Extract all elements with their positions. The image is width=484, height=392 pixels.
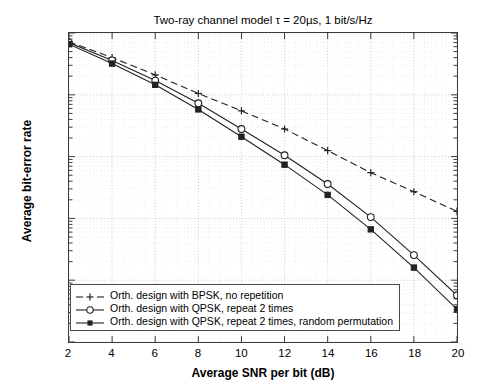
x-tick-label: 12 — [278, 347, 291, 359]
x-tick-label: 14 — [322, 347, 335, 359]
chart-figure: Two-ray channel model τ = 20µs, 1 bit/s/… — [0, 0, 484, 392]
legend-label: Orth. design with QPSK, repeat 2 times, … — [110, 315, 393, 327]
legend-item: Orth. design with QPSK, repeat 2 times — [75, 301, 393, 314]
legend-label: Orth. design with BPSK, no repetition — [110, 289, 283, 301]
legend-item: Orth. design with BPSK, no repetition — [75, 288, 393, 301]
x-tick-label: 20 — [452, 347, 465, 359]
x-tick-label: 2 — [65, 347, 71, 359]
chart-legend: Orth. design with BPSK, no repetitionOrt… — [70, 284, 400, 331]
legend-marker-square-filled-icon — [75, 315, 105, 327]
y-axis-label: Average bit-error rate — [20, 91, 34, 271]
legend-marker-plus-icon — [75, 289, 105, 301]
chart-title: Two-ray channel model τ = 20µs, 1 bit/s/… — [68, 14, 458, 26]
legend-item: Orth. design with QPSK, repeat 2 times, … — [75, 314, 393, 327]
x-tick-label: 6 — [151, 347, 157, 359]
legend-marker-circle-icon — [75, 302, 105, 314]
x-tick-label: 4 — [108, 347, 114, 359]
x-axis-label: Average SNR per bit (dB) — [68, 366, 458, 380]
x-tick-label: 8 — [195, 347, 201, 359]
x-tick-label: 10 — [235, 347, 248, 359]
x-tick-label: 16 — [365, 347, 378, 359]
legend-label: Orth. design with QPSK, repeat 2 times — [110, 302, 293, 314]
x-tick-label: 18 — [408, 347, 421, 359]
